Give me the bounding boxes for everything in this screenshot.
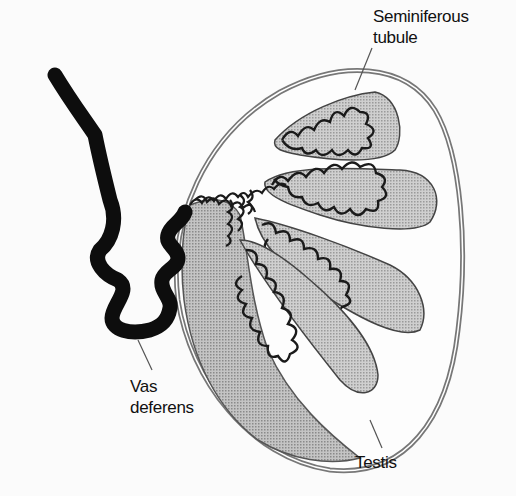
label-seminiferous-tubule: Seminiferous tubule: [373, 6, 469, 48]
vas-deferens: [55, 75, 185, 332]
label-line: Vas: [130, 376, 194, 397]
testis-diagram: [0, 0, 516, 496]
leader-vas: [138, 340, 152, 370]
label-vas-deferens: Vas deferens: [130, 376, 194, 418]
label-line: deferens: [130, 397, 194, 418]
label-line: Seminiferous: [373, 6, 469, 27]
label-line: tubule: [373, 27, 469, 48]
label-testis: Testis: [355, 452, 397, 473]
label-line: Testis: [355, 452, 397, 473]
